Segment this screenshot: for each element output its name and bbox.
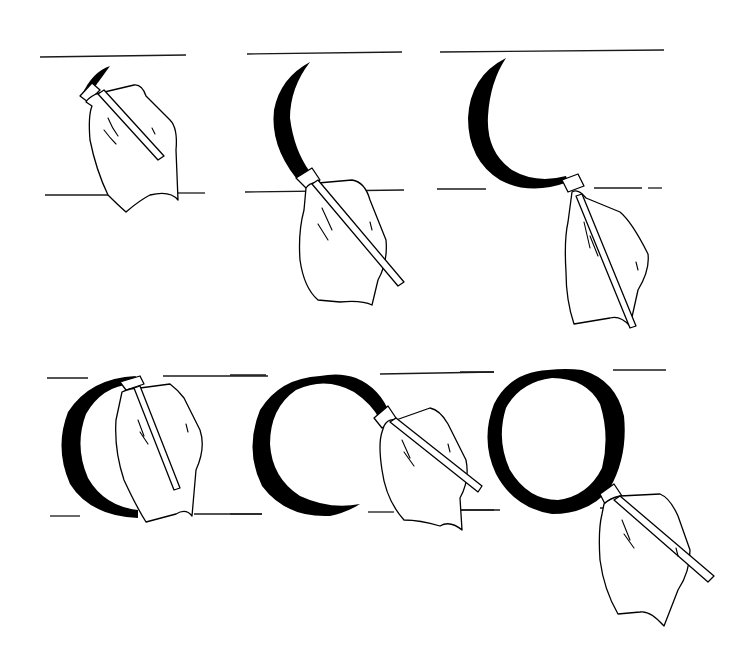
- guide-line-top: [440, 50, 664, 52]
- guide-line-top: [247, 52, 402, 54]
- panel-step-6: [460, 369, 714, 626]
- panel-step-4: [47, 376, 268, 522]
- panel-step-3: [437, 50, 664, 328]
- ink-stroke-left: [273, 62, 310, 178]
- guide-line-top: [40, 55, 186, 57]
- panel-step-5: [230, 372, 494, 530]
- panel-step-1: [40, 55, 205, 212]
- hand: [300, 180, 387, 305]
- ink-stroke-full-left: [252, 374, 390, 516]
- ink-stroke-left: [468, 58, 568, 189]
- hand: [86, 85, 178, 212]
- hand: [599, 494, 690, 626]
- calligraphy-illustration: [0, 0, 742, 655]
- panel-step-2: [245, 52, 404, 305]
